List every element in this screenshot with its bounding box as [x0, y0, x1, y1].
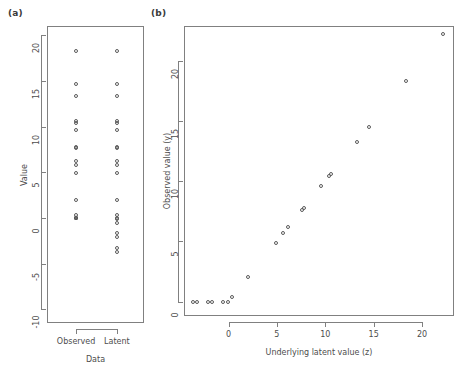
panel-a-x-tick: [117, 329, 118, 334]
panel-b-x-tick: [277, 322, 278, 327]
panel-b-x-tick-label: 15: [354, 330, 394, 339]
data-point: [74, 198, 78, 202]
data-point: [221, 300, 225, 304]
panel-b-x-tick-label: 10: [305, 330, 345, 339]
data-point: [115, 121, 119, 125]
panel-b-y-axis-title: Observed value (y): [162, 111, 174, 231]
panel-b-x-tick-label: 20: [402, 330, 442, 339]
panel-a-y-tick-label: -10: [31, 309, 43, 335]
panel-b-x-axis-title: Underlying latent value (z): [184, 348, 454, 357]
panel-a-y-tick-label: 15: [31, 81, 43, 107]
data-point: [274, 241, 278, 245]
data-point: [226, 300, 230, 304]
data-point: [115, 171, 119, 175]
data-point: [355, 140, 359, 144]
data-point: [115, 235, 119, 239]
data-point: [286, 225, 290, 229]
data-point: [367, 125, 371, 129]
panel-b-y-tick-label: 5: [170, 241, 182, 267]
panel-b-y-tick-label: 20: [170, 61, 182, 87]
panel-a-plot-area: [47, 26, 144, 323]
data-point: [210, 300, 214, 304]
data-point: [281, 231, 285, 235]
data-point: [115, 163, 119, 167]
data-point: [195, 300, 199, 304]
data-point: [115, 49, 119, 53]
panel-a-x-axis-title: Data: [47, 355, 144, 364]
data-point: [115, 128, 119, 132]
figure-canvas: (a) (b) -10-505101520ValueObservedLatent…: [0, 0, 464, 373]
panel-b-x-tick: [374, 322, 375, 327]
panel-b-x-tick: [325, 322, 326, 327]
data-point: [74, 163, 78, 167]
panel-b-plot-area: [184, 26, 454, 316]
panel-a-y-tick-label: 5: [31, 172, 43, 198]
panel-a-y-axis-title: Value: [19, 135, 31, 215]
data-point: [74, 121, 78, 125]
panel-a-y-tick-label: 20: [31, 35, 43, 61]
panel-a-x-axis-line: [76, 329, 117, 330]
data-point: [115, 198, 119, 202]
panel-b-y-tick-label: 0: [170, 302, 182, 328]
panel-b-x-tick: [229, 322, 230, 327]
panel-a-y-tick-label: -5: [31, 264, 43, 290]
panel-a-y-tick-label: 0: [31, 218, 43, 244]
panel-b-x-tick-label: 0: [209, 330, 249, 339]
data-point: [74, 49, 78, 53]
panel-b-x-tick: [422, 322, 423, 327]
data-point: [115, 250, 119, 254]
panel-b-x-tick-label: 5: [257, 330, 297, 339]
data-point: [74, 216, 78, 220]
panel-a-y-tick-label: 10: [31, 127, 43, 153]
panel-a-x-tick: [76, 329, 77, 334]
panel-a-x-tick-label: Latent: [87, 337, 147, 346]
panel-a-label: (a): [8, 8, 23, 18]
panel-b-label: (b): [151, 8, 166, 18]
data-point: [302, 206, 306, 210]
